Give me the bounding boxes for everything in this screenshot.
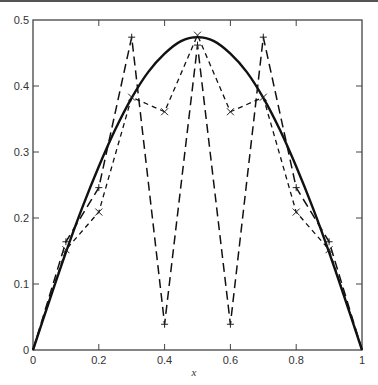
series-layer — [33, 35, 362, 350]
cross-marker — [293, 209, 300, 216]
x-tick-label: 0 — [30, 354, 36, 366]
y-tick-label: 0.4 — [14, 80, 29, 92]
plus-marker — [293, 184, 300, 191]
x-tick-label: 1 — [359, 354, 365, 366]
markers-layer — [62, 32, 332, 328]
plot-area — [33, 20, 362, 350]
plus-marker — [227, 321, 234, 328]
x-tick-label: 0.4 — [157, 354, 172, 366]
y-tick-label: 0.3 — [14, 146, 29, 158]
axis-ticks: 00.20.40.60.8100.10.20.30.40.5 — [14, 14, 365, 366]
x-tick-label: 0.8 — [289, 354, 304, 366]
series-line — [33, 35, 362, 350]
x-axis-label: x — [191, 366, 197, 378]
plus-marker — [260, 34, 267, 41]
series-line — [33, 37, 362, 350]
plus-marker — [128, 34, 135, 41]
series-line — [33, 37, 362, 350]
y-tick-label: 0.1 — [14, 278, 29, 290]
plus-marker — [161, 321, 168, 328]
y-tick-label: 0.5 — [14, 14, 29, 26]
cross-marker — [95, 209, 102, 216]
y-tick-label: 0 — [23, 344, 29, 356]
line-chart: 00.20.40.60.8100.10.20.30.40.5 x — [0, 0, 378, 385]
plot-frame — [33, 20, 362, 350]
cross-marker — [161, 108, 168, 115]
x-tick-label: 0.2 — [91, 354, 106, 366]
plus-marker — [95, 184, 102, 191]
x-tick-label: 0.6 — [223, 354, 238, 366]
y-tick-label: 0.2 — [14, 212, 29, 224]
cross-marker — [227, 108, 234, 115]
plus-marker — [194, 42, 201, 49]
